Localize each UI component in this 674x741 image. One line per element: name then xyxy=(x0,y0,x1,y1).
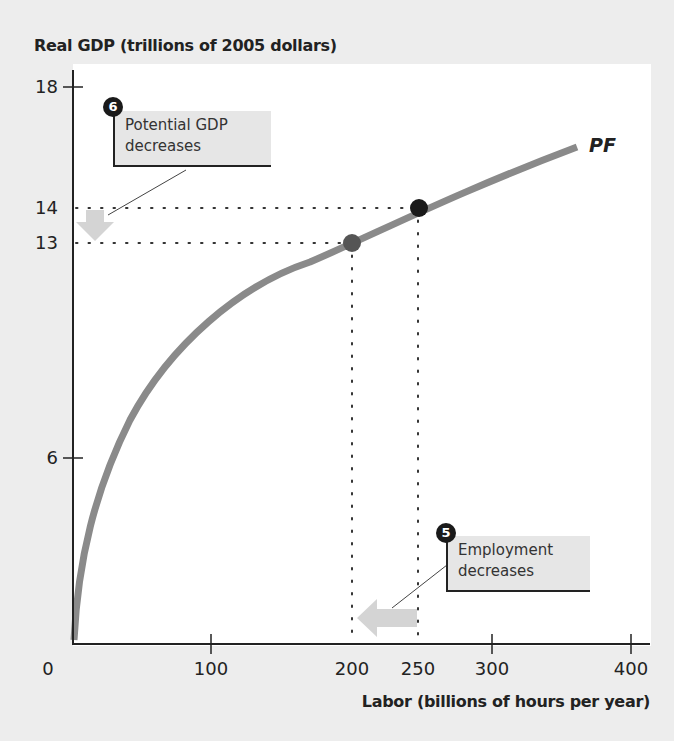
xtick-label-250: 250 xyxy=(393,658,443,679)
xtick-label-300: 300 xyxy=(467,658,517,679)
pf-curve-label: PF xyxy=(589,134,616,156)
point-initial-250-14 xyxy=(410,199,428,217)
ytick-label-6: 6 xyxy=(28,447,58,468)
chart-svg xyxy=(0,0,674,741)
y-axis-label: Real GDP (trillions of 2005 dollars) xyxy=(34,36,337,55)
callout-potential-gdp: Potential GDP decreases xyxy=(113,111,271,167)
x-axis-label: Labor (billions of hours per year) xyxy=(362,692,650,711)
callout-5-line2: decreases xyxy=(458,561,582,582)
xtick-label-400: 400 xyxy=(606,658,656,679)
leader-line-6 xyxy=(108,170,186,215)
callout-employment: Employment decreases xyxy=(446,536,590,592)
ytick-label-18: 18 xyxy=(28,76,58,97)
callout-6-line2: decreases xyxy=(125,136,263,157)
badge-6: 6 xyxy=(103,97,123,117)
xtick-label-100: 100 xyxy=(186,658,236,679)
ytick-label-13: 13 xyxy=(28,232,58,253)
callout-6-line1: Potential GDP xyxy=(125,115,263,136)
leader-line-5 xyxy=(392,565,447,608)
left-arrow-icon xyxy=(357,599,417,637)
badge-5: 5 xyxy=(436,523,456,543)
callout-5-line1: Employment xyxy=(458,540,582,561)
ytick-label-14: 14 xyxy=(28,197,58,218)
xtick-label-0: 0 xyxy=(23,658,73,679)
xtick-label-200: 200 xyxy=(327,658,377,679)
point-new-200-13 xyxy=(343,234,361,252)
